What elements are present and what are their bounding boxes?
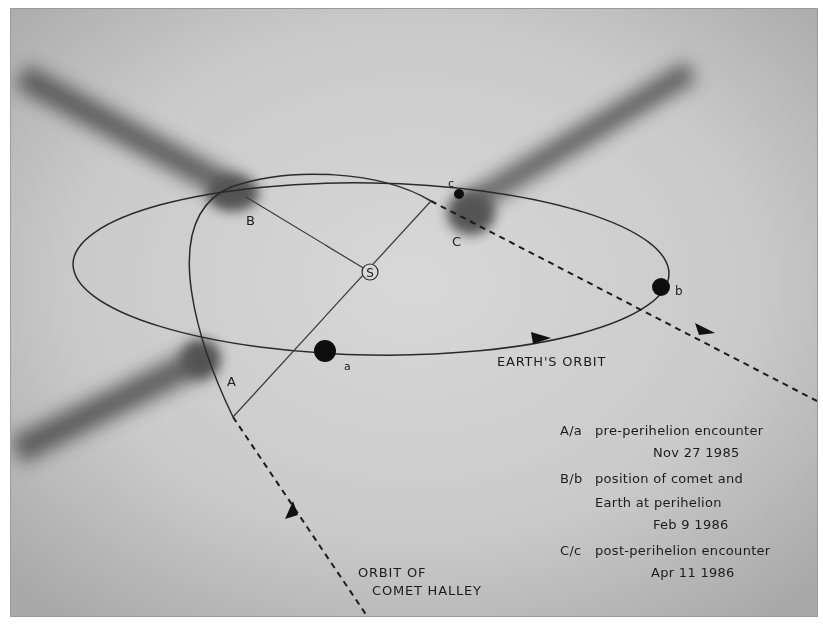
legend-text-bb: position of comet and [595, 471, 743, 486]
legend-text-cc: post-perihelion encounter [595, 543, 771, 558]
earth-label-b: b [675, 284, 683, 298]
diagram-frame: S A B C a b c EARTH'S ORBIT ORBIT OF COM… [10, 8, 818, 617]
legend-text-aa: pre-perihelion encounter [595, 423, 763, 438]
comet-orbit-label-line1: ORBIT OF [358, 565, 426, 580]
earth-position-c [454, 189, 464, 199]
legend-date-cc: Apr 11 1986 [651, 565, 735, 580]
legend-date-bb: Feb 9 1986 [653, 517, 729, 532]
legend-key-bb: B/b [560, 471, 582, 486]
legend-text2-bb: Earth at perihelion [595, 495, 722, 510]
earth-orbit-label: EARTH'S ORBIT [497, 354, 606, 369]
earth-label-c: c [448, 177, 454, 190]
comet-label-c: C [452, 234, 461, 249]
earth-label-a: a [344, 360, 351, 373]
earth-position-a [314, 340, 336, 362]
legend-key-cc: C/c [560, 543, 582, 558]
comet-label-b: B [246, 213, 255, 228]
svg-text:S: S [366, 266, 374, 280]
comet-orbit-label-line2: COMET HALLEY [372, 583, 482, 598]
legend-key-aa: A/a [560, 423, 582, 438]
earth-position-b [652, 278, 670, 296]
comet-label-a: A [227, 374, 236, 389]
legend-date-aa: Nov 27 1985 [653, 445, 740, 460]
